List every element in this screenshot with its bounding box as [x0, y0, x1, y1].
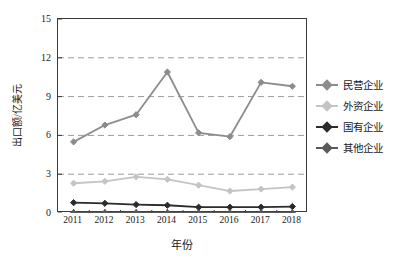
data-point-marker — [102, 178, 108, 184]
legend-item[interactable]: 其他企业 — [316, 137, 404, 158]
data-point-marker — [133, 210, 139, 213]
y-tick-label: 9 — [11, 90, 51, 101]
x-axis-title-text: 年份 — [171, 239, 193, 251]
data-point-marker — [227, 188, 233, 194]
data-point-marker — [289, 210, 295, 213]
data-point-marker — [133, 201, 139, 207]
data-point-marker — [289, 203, 295, 209]
data-point-marker — [164, 176, 170, 182]
chart-figure: 出口额/亿美元 15129630 20112012201320142015201… — [0, 0, 405, 259]
legend-diamond-icon — [321, 100, 332, 111]
data-point-marker — [227, 210, 233, 213]
data-point-marker — [196, 210, 202, 213]
legend-item[interactable]: 外资企业 — [316, 95, 404, 116]
x-axis-title: 年份 — [57, 236, 307, 252]
y-axis-title: 出口额/亿美元 — [8, 60, 24, 170]
data-point-marker — [71, 200, 77, 206]
data-point-marker — [102, 200, 108, 206]
legend-marker-icon — [316, 79, 338, 91]
legend-item-label: 民营企业 — [343, 77, 383, 92]
legend-marker-icon — [316, 100, 338, 112]
legend-marker-icon — [316, 142, 338, 154]
chart-legend: 民营企业外资企业国有企业其他企业 — [316, 74, 404, 158]
data-point-marker — [289, 83, 295, 89]
y-tick-label: 12 — [11, 51, 51, 62]
y-tick-label: 3 — [11, 168, 51, 179]
legend-marker-icon — [316, 121, 338, 133]
data-point-marker — [71, 180, 77, 186]
data-point-marker — [289, 184, 295, 190]
data-point-marker — [164, 210, 170, 213]
y-tick-label: 15 — [11, 13, 51, 24]
data-point-marker — [196, 182, 202, 188]
y-tick-label: 0 — [11, 207, 51, 218]
legend-diamond-icon — [321, 121, 332, 132]
legend-item[interactable]: 国有企业 — [316, 116, 404, 137]
legend-item-label: 外资企业 — [343, 98, 383, 113]
legend-item-label: 国有企业 — [343, 119, 383, 134]
legend-diamond-icon — [321, 142, 332, 153]
legend-item[interactable]: 民营企业 — [316, 74, 404, 95]
data-point-marker — [102, 210, 108, 213]
plot-area — [57, 18, 307, 212]
legend-item-label: 其他企业 — [343, 140, 383, 155]
data-point-marker — [258, 210, 264, 213]
data-point-marker — [71, 210, 77, 213]
chart-canvas — [58, 19, 308, 213]
data-point-marker — [164, 202, 170, 208]
x-tick-label: 2018 — [269, 215, 313, 225]
y-tick-label: 6 — [11, 129, 51, 140]
legend-diamond-icon — [321, 79, 332, 90]
data-point-marker — [258, 186, 264, 192]
